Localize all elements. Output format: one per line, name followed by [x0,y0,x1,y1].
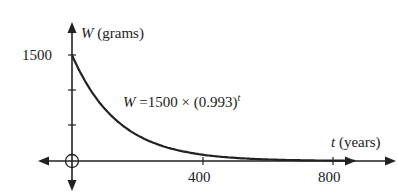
y-axis-down-arrow-icon [68,180,77,191]
y-axis-var: W [81,25,94,41]
y-axis-up-arrow-icon [68,22,77,33]
x-axis-right-arrow-icon [385,157,396,166]
x-tick-label-400: 400 [188,170,211,185]
x-axis-unit: (years) [339,134,381,150]
equation-lhs: W [123,94,136,110]
x-axis-var: t [331,134,335,150]
x-axis-left-arrow-icon [38,157,49,166]
y-axis [68,22,77,191]
y-axis-unit: (grams) [97,25,144,41]
x-tick-label-800: 800 [318,170,341,185]
equation-rhs: =1500 × (0.993) [139,94,237,110]
equation-exponent: t [237,92,240,103]
equation-label: W =1500 × (0.993)t [123,93,240,110]
x-axis-label: t (years) [331,135,381,150]
y-axis-label: W (grams) [81,26,144,41]
y-tick-label-1500: 1500 [22,48,52,63]
